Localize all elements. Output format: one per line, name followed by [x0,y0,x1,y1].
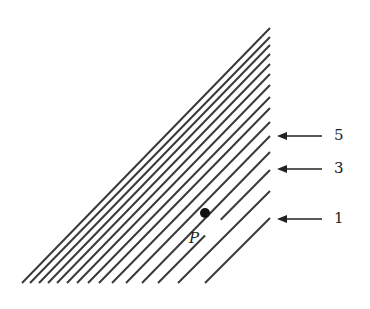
line-label-5: 5 [334,128,344,143]
point-p-label: P [189,231,199,246]
arrow-head-icon [277,165,287,173]
parallel-line [22,28,270,283]
parallel-line [77,85,270,283]
parallel-line [67,74,270,283]
point-p-marker [200,208,210,218]
parallel-lines-diagram [0,0,370,309]
parallel-line [205,218,270,283]
line-label-3: 3 [334,161,344,176]
label-arrows [277,132,322,223]
parallel-line [88,97,270,283]
parallel-line [39,45,270,283]
line-label-1: 1 [334,211,344,226]
arrow-head-icon [277,215,287,223]
parallel-lines [22,28,270,283]
arrow-head-icon [277,132,287,140]
